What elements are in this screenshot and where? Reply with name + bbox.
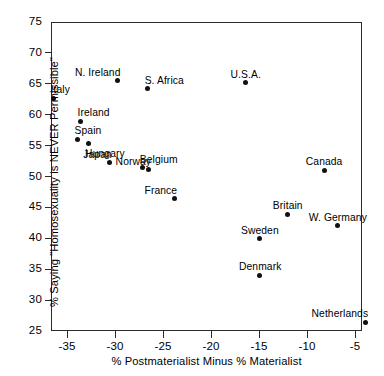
x-tick-label: -15 bbox=[250, 340, 267, 352]
data-point-label: Norway bbox=[116, 156, 152, 167]
data-point bbox=[75, 137, 80, 142]
data-point bbox=[363, 320, 368, 325]
x-tick-mark bbox=[355, 331, 356, 338]
x-tick-label: -20 bbox=[202, 340, 219, 352]
x-tick-label: -30 bbox=[106, 340, 123, 352]
data-point-label: S. Africa bbox=[145, 75, 184, 86]
y-tick-label: 25 bbox=[29, 324, 42, 336]
y-tick-label: 35 bbox=[29, 262, 42, 274]
x-tick-label: -5 bbox=[350, 340, 361, 352]
y-tick-label: 50 bbox=[29, 170, 42, 182]
x-tick-mark bbox=[67, 331, 68, 338]
scatter-plot-figure: 2530354045505560657075 -35-30-25-20-15-1… bbox=[0, 0, 384, 376]
y-tick-label: 65 bbox=[29, 77, 42, 89]
data-point-label: Canada bbox=[306, 156, 343, 167]
data-point-label: Netherlands bbox=[312, 308, 369, 319]
x-tick-mark bbox=[259, 331, 260, 338]
y-tick-label: 30 bbox=[29, 293, 42, 305]
y-tick-label: 75 bbox=[29, 15, 42, 27]
y-tick-label: 40 bbox=[29, 231, 42, 243]
data-point-label: Ireland bbox=[77, 107, 109, 118]
data-point-label: W. Germany bbox=[309, 212, 367, 223]
data-point-label: Japan bbox=[83, 149, 112, 160]
x-tick-mark bbox=[115, 331, 116, 338]
x-axis-label: % Postmaterialist Minus % Materialist bbox=[51, 355, 362, 367]
x-tick-label: -35 bbox=[58, 340, 75, 352]
data-point-label: Denmark bbox=[239, 261, 281, 272]
data-point-label: Spain bbox=[75, 125, 102, 136]
data-point-label: N. Ireland bbox=[75, 67, 121, 78]
data-point-label: France bbox=[145, 185, 178, 196]
x-tick-mark bbox=[211, 331, 212, 338]
data-point bbox=[86, 141, 91, 146]
x-tick-label: -25 bbox=[154, 340, 171, 352]
data-point-label: Sweden bbox=[241, 225, 279, 236]
x-tick-label: -10 bbox=[298, 340, 315, 352]
y-tick-label: 60 bbox=[29, 108, 42, 120]
y-tick-label: 55 bbox=[29, 139, 42, 151]
data-point bbox=[78, 119, 83, 124]
data-point-label: Britain bbox=[273, 200, 303, 211]
x-tick-mark bbox=[163, 331, 164, 338]
x-tick-mark bbox=[307, 331, 308, 338]
y-axis-label: % Saying "Homosexuality is NEVER Permiss… bbox=[48, 32, 60, 332]
y-tick-label: 45 bbox=[29, 200, 42, 212]
data-point-label: U.S.A. bbox=[231, 69, 261, 80]
data-point bbox=[322, 168, 327, 173]
y-tick-label: 70 bbox=[29, 46, 42, 58]
